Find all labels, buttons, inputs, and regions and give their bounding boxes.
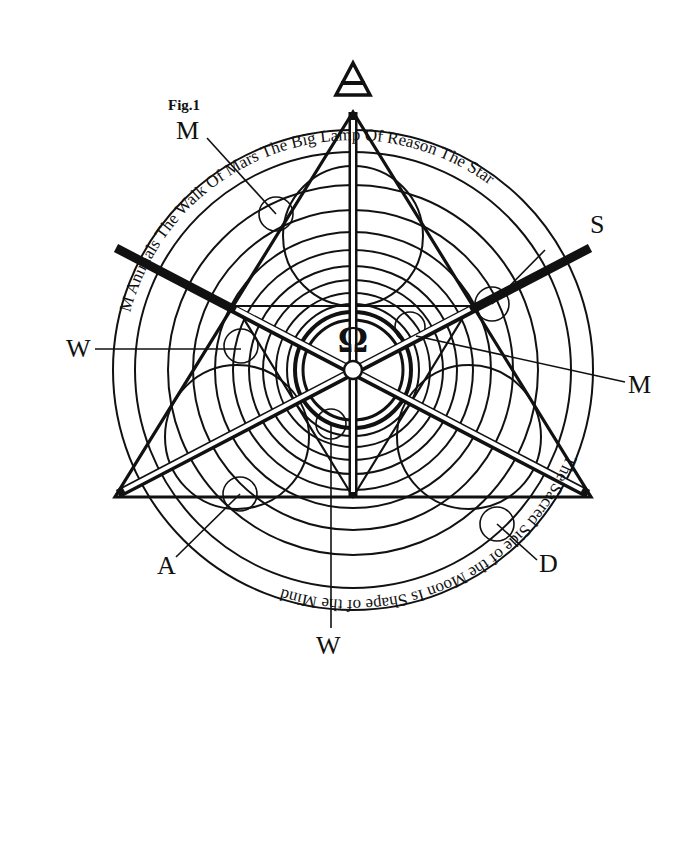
direction-label-left: W (66, 336, 91, 362)
direction-label-bottom-right: D (539, 551, 558, 577)
ring-text-bottom: The Sacred Side of the Moon Is Shape of … (277, 453, 581, 615)
direction-label-right-top: S (590, 212, 604, 238)
direction-label-top-left: M (176, 118, 199, 144)
air-triangle-symbol (336, 63, 370, 95)
direction-label-bottom: W (316, 633, 341, 659)
direction-label-right: M (628, 372, 651, 398)
figure-caption: Fig.1 (168, 97, 200, 114)
ring-text-top: M Animals The Walk Of Mars The Big Lamp … (116, 125, 499, 314)
omega-symbol: Ω (338, 318, 368, 360)
mystic-diagram: Ω M Animals The Walk Of Mars The Big Lam… (0, 0, 698, 849)
direction-label-bottom-left: A (157, 553, 176, 579)
